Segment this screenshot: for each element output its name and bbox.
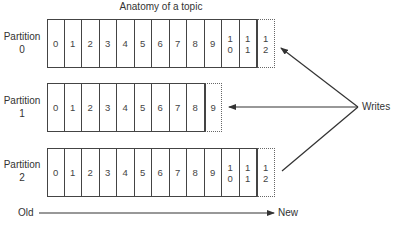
old-label: Old <box>18 207 34 218</box>
write-arrow-partition-0 <box>281 48 358 107</box>
arrows-overlay <box>0 0 397 228</box>
writes-label: Writes <box>362 101 390 112</box>
write-line-partition-2 <box>282 107 358 171</box>
new-label: New <box>278 207 298 218</box>
